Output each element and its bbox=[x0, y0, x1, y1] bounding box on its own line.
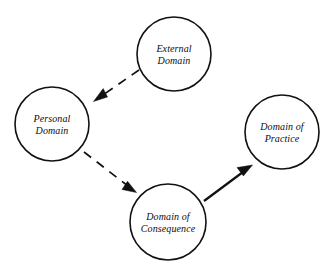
edge-consequence-to-practice bbox=[204, 165, 253, 201]
edge-line-personal-to-consequence bbox=[84, 152, 128, 186]
node-circle-external-domain bbox=[137, 17, 211, 91]
edge-line-consequence-to-practice bbox=[204, 172, 243, 201]
edge-personal-to-consequence bbox=[84, 152, 137, 193]
node-circle-personal-domain bbox=[15, 87, 89, 161]
node-circle-domain-of-practice bbox=[245, 95, 319, 169]
diagram-canvas: External Domain Personal Domain Domain o… bbox=[0, 0, 333, 273]
edge-line-external-to-personal bbox=[100, 70, 139, 97]
node-circle-domain-of-consequence bbox=[130, 184, 206, 260]
arrowhead-external-to-personal bbox=[94, 89, 108, 102]
diagram-vector-layer bbox=[0, 0, 333, 273]
edge-external-to-personal bbox=[94, 70, 140, 102]
